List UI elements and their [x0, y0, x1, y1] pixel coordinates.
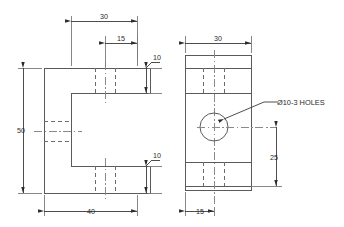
side-view-outline	[185, 55, 251, 190]
front-dim15-text: 15	[117, 34, 125, 43]
side-dim15-text: 15	[196, 207, 204, 216]
cad-drawing-svg: 30 15 10 10 50	[0, 0, 344, 227]
front-dim10-upper-leader	[146, 62, 152, 68]
front-dim10-lower-leader	[146, 160, 152, 166]
side-dim25-text: 25	[270, 153, 278, 162]
technical-drawing-canvas: 30 15 10 10 50	[0, 0, 344, 227]
front-dim10-upper-text: 10	[153, 53, 161, 62]
hole-note-text: Ø10-3 HOLES	[277, 98, 325, 107]
front-dim30-text: 30	[100, 12, 108, 21]
front-view: 30 15 10 10 50	[17, 12, 162, 216]
front-dim10-lower-text: 10	[153, 151, 161, 160]
side-view: 30 25 15 Ø10-3 HOLES	[185, 34, 325, 216]
hole-note-leader-line	[224, 102, 264, 119]
front-dim40-text: 40	[87, 207, 95, 216]
side-dim30-text: 30	[214, 34, 222, 43]
front-dim50-text: 50	[17, 126, 25, 135]
